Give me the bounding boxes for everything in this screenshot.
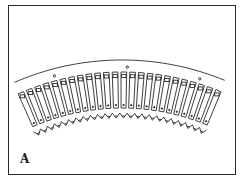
comb-strip-drawing [0,0,241,183]
panel-label: A [20,152,29,166]
